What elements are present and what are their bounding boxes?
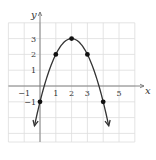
y-tick-label: −1 xyxy=(24,98,36,107)
data-point xyxy=(101,99,106,104)
x-tick-label: 1 xyxy=(53,89,58,98)
data-point xyxy=(53,52,58,57)
x-tick-label: 3 xyxy=(85,89,90,98)
axes xyxy=(8,12,144,142)
y-tick-label: 3 xyxy=(31,35,36,44)
x-tick-label: −1 xyxy=(18,89,30,98)
y-tick-label: 2 xyxy=(31,50,36,59)
data-point xyxy=(69,36,74,41)
data-point xyxy=(38,99,43,104)
x-axis-label: x xyxy=(145,85,151,96)
y-axis-label: y xyxy=(30,9,37,20)
tick-labels: xy−11235−1123 xyxy=(18,9,151,107)
parabola-graph: xy−11235−1123 xyxy=(0,0,156,160)
x-tick-label: 2 xyxy=(69,89,74,98)
data-point xyxy=(85,52,90,57)
x-tick-label: 5 xyxy=(116,89,121,98)
y-tick-label: 1 xyxy=(31,66,36,75)
